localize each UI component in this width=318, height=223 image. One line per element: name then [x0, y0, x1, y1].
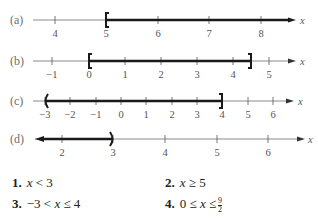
answer-inequality: x < 3: [27, 175, 53, 190]
answer-number: 3.: [12, 196, 22, 211]
fraction-denominator: 2: [218, 206, 222, 214]
answer-number: 4.: [165, 196, 175, 211]
answer-number: 2.: [165, 175, 175, 190]
answer-3: 3.−3 < x ≤ 4: [12, 196, 80, 212]
answer-2: 2.x ≥ 5: [165, 175, 206, 191]
answer-4: 4.0 ≤ x ≤92: [165, 196, 222, 214]
answer-number: 1.: [12, 175, 22, 190]
answer-inequality: −3 < x ≤ 4: [27, 196, 81, 211]
answer-1: 1.x < 3: [12, 175, 53, 191]
fraction-nine-halves: 92: [218, 197, 222, 214]
answer-list: 1.x < 3 2.x ≥ 5 3.−3 < x ≤ 4 4.0 ≤ x ≤92: [0, 0, 318, 223]
answer-inequality: x ≥ 5: [180, 175, 206, 190]
answer-inequality: 0 ≤ x ≤: [180, 196, 216, 211]
